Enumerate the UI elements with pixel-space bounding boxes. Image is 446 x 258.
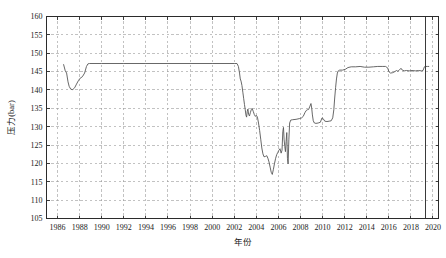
x-axis-tick-label: 2004 [248, 223, 264, 232]
x-axis-tick-label: 2002 [226, 223, 242, 232]
data-series-layer [64, 64, 429, 175]
x-axis-tick-marks [58, 17, 433, 219]
series-line-pressure [64, 64, 429, 175]
y-axis-tick-label: 150 [31, 49, 43, 58]
x-axis-tick-label: 2016 [381, 223, 397, 232]
x-axis-tick-label: 2014 [359, 223, 375, 232]
y-axis-tick-label: 140 [31, 86, 43, 95]
x-axis-tick-label: 1992 [116, 223, 132, 232]
x-axis-tick-label: 2000 [204, 223, 220, 232]
y-axis-tick-label: 125 [31, 141, 43, 150]
y-axis-tick-label: 105 [31, 214, 43, 223]
x-axis-tick-label: 1988 [72, 223, 88, 232]
pressure-history-chart: 105110115120125130135140145150155160 198… [0, 0, 446, 258]
y-axis-tick-label: 155 [31, 31, 43, 40]
y-axis-tick-label: 145 [31, 67, 43, 76]
y-axis-tick-label: 135 [31, 104, 43, 113]
x-axis-tick-label: 1998 [182, 223, 198, 232]
y-axis-tick-label: 130 [31, 123, 43, 132]
x-axis-tick-label: 2010 [315, 223, 331, 232]
horizontal-grid-lines [47, 35, 439, 200]
x-axis-tick-label: 1994 [138, 223, 154, 232]
x-axis-tick-labels: 1986198819901992199419961998200020022004… [50, 223, 441, 232]
y-axis-tick-label: 120 [31, 159, 43, 168]
y-axis-title: 压力(bar) [6, 100, 16, 135]
chart-canvas: 105110115120125130135140145150155160 198… [0, 0, 446, 258]
x-axis-tick-label: 2018 [403, 223, 419, 232]
y-axis-tick-labels: 105110115120125130135140145150155160 [31, 12, 43, 223]
y-axis-tick-label: 110 [31, 196, 43, 205]
x-axis-tick-label: 2020 [425, 223, 441, 232]
x-axis-title: 年份 [234, 237, 252, 247]
vertical-grid-lines [58, 17, 433, 219]
y-axis-tick-label: 160 [31, 12, 43, 21]
x-axis-tick-label: 1990 [94, 223, 110, 232]
x-axis-tick-label: 2012 [337, 223, 353, 232]
y-axis-tick-label: 115 [31, 178, 43, 187]
x-axis-tick-label: 1986 [50, 223, 66, 232]
plot-area-frame [47, 17, 439, 219]
x-axis-tick-label: 2008 [292, 223, 308, 232]
x-axis-tick-label: 2006 [270, 223, 286, 232]
y-axis-tick-marks [47, 17, 439, 219]
x-axis-tick-label: 1996 [160, 223, 176, 232]
